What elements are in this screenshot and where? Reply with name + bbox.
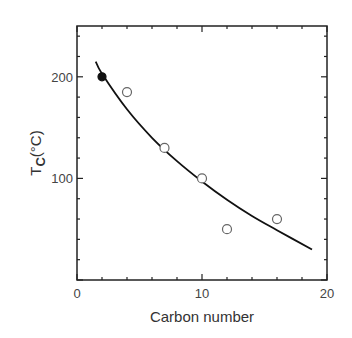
- open-data-point: [223, 225, 232, 234]
- minor-ticks: [77, 26, 327, 280]
- plot-frame: [77, 26, 327, 280]
- y-axis-title: TC(°C): [27, 130, 48, 175]
- data-points: [98, 73, 282, 234]
- open-data-point: [160, 143, 169, 152]
- x-tick-labels: 01020: [73, 286, 334, 301]
- x-tick-label: 0: [73, 286, 80, 301]
- y-tick-labels: 100200: [51, 70, 73, 187]
- x-tick-label: 10: [195, 286, 209, 301]
- y-title-main: T: [27, 167, 44, 176]
- y-tick-label: 100: [51, 171, 73, 186]
- svg-text:TC(°C): TC(°C): [27, 130, 48, 175]
- chart: 01020 100200 Carbon number TC(°C): [0, 0, 352, 338]
- y-tick-label: 200: [51, 70, 73, 85]
- open-data-point: [123, 88, 132, 97]
- open-data-point: [198, 174, 207, 183]
- open-data-point: [273, 215, 282, 224]
- filled-data-point: [98, 73, 106, 81]
- x-tick-label: 20: [320, 286, 334, 301]
- major-ticks: [77, 26, 327, 280]
- y-title-unit: (°C): [27, 130, 44, 157]
- x-axis-title: Carbon number: [150, 308, 254, 325]
